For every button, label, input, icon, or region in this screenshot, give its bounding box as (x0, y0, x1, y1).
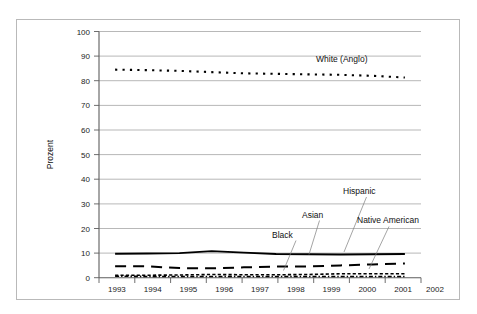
leader-native-american (369, 227, 389, 270)
x-tick-label: 2002 (426, 285, 444, 294)
y-tick-label: 100 (77, 28, 91, 37)
chart-figure: 100 90 80 70 60 50 40 30 20 10 0 Prozent (16, 19, 460, 300)
y-tick-label: 80 (81, 77, 90, 86)
x-tick-label: 2000 (358, 285, 376, 294)
leader-asian (309, 221, 320, 255)
y-axis-title: Prozent (45, 139, 55, 169)
x-tick-label: 1997 (251, 285, 269, 294)
annotation-native-american: Native American (357, 215, 419, 225)
y-tick-labels: 100 90 80 70 60 50 40 30 20 10 0 (77, 28, 91, 283)
series-annotations: White (Anglo) Hispanic Asian Black Nativ… (272, 54, 419, 240)
x-tickmarks (99, 278, 421, 283)
x-tick-label: 2001 (394, 285, 412, 294)
y-tick-label: 90 (81, 52, 90, 61)
y-tick-label: 50 (81, 151, 90, 160)
y-tick-label: 40 (81, 175, 90, 184)
x-tick-labels: 1993 1994 1995 1996 1997 1998 1999 2000 … (108, 285, 444, 294)
y-tick-label: 70 (81, 101, 90, 110)
y-tickmarks (94, 32, 99, 278)
annotation-leaders (284, 197, 390, 271)
y-tick-label: 60 (81, 126, 90, 135)
y-tick-label: 30 (81, 200, 90, 209)
x-tick-label: 1995 (180, 285, 198, 294)
leader-black (284, 241, 297, 271)
y-tick-label: 0 (86, 274, 91, 283)
series-line-hispanic (115, 263, 405, 268)
y-tick-label: 20 (81, 225, 90, 234)
annotation-hispanic: Hispanic (343, 186, 376, 196)
x-tick-label: 1993 (108, 285, 126, 294)
y-tick-label: 10 (81, 249, 90, 258)
annotation-black: Black (272, 230, 294, 240)
x-tick-label: 1998 (287, 285, 305, 294)
series-line-asian (115, 274, 405, 275)
series-lines (115, 70, 405, 277)
annotation-asian: Asian (302, 210, 324, 220)
x-tick-label: 1996 (215, 285, 233, 294)
line-chart: 100 90 80 70 60 50 40 30 20 10 0 Prozent (17, 20, 459, 299)
annotation-white-anglo: White (Anglo) (316, 54, 368, 64)
series-line-white-anglo (115, 70, 405, 78)
x-tick-label: 1999 (323, 285, 341, 294)
x-tick-label: 1994 (144, 285, 162, 294)
